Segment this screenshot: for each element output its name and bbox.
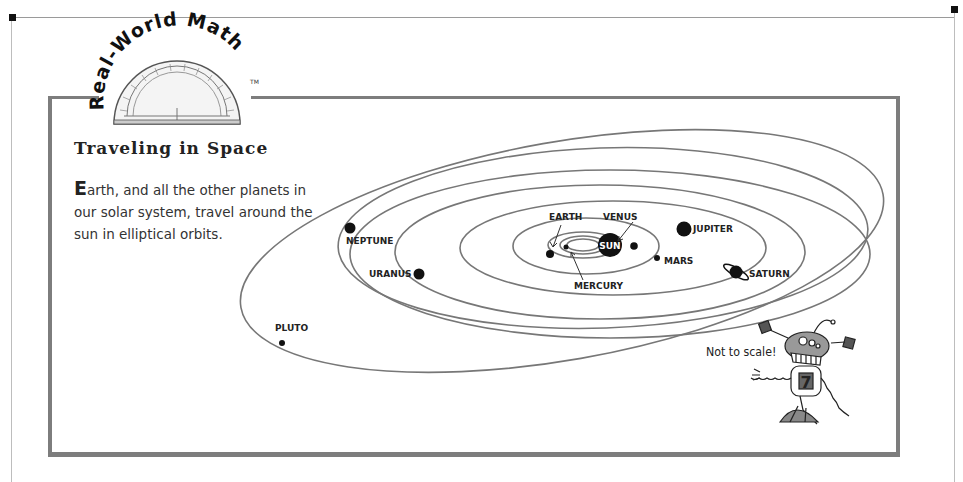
- label-pluto: PLUTO: [275, 323, 308, 333]
- planet-pluto: [279, 340, 285, 346]
- orbit-saturn: [395, 185, 805, 319]
- planet-uranus: [414, 269, 425, 280]
- planet-jupiter: [677, 222, 692, 237]
- label-mercury: MERCURY: [574, 281, 623, 291]
- robot-mascot: 7: [751, 320, 855, 424]
- label-saturn: SATURN: [749, 269, 790, 279]
- label-neptune: NEPTUNE: [346, 236, 393, 246]
- sun-label: SUN: [599, 241, 620, 251]
- planet-earth: [546, 250, 554, 258]
- pointer-venus: [618, 222, 633, 241]
- solar-system-diagram: SUN EARTH VENUS JUPITER MARS SATURN MERC…: [0, 0, 963, 482]
- label-venus: VENUS: [603, 212, 637, 222]
- planet-mercury: [564, 245, 569, 250]
- pointer-mercury: [571, 252, 583, 280]
- planet-neptune: [345, 223, 356, 234]
- not-to-scale-note: Not to scale!: [706, 344, 776, 359]
- planet-venus: [630, 242, 638, 250]
- orbit-mercury: [567, 239, 599, 251]
- mascot-number: 7: [800, 373, 811, 392]
- label-jupiter: JUPITER: [692, 224, 733, 234]
- planet-mars: [654, 255, 660, 261]
- label-uranus: URANUS: [369, 269, 412, 279]
- label-earth: EARTH: [549, 212, 582, 222]
- label-mars: MARS: [664, 256, 693, 266]
